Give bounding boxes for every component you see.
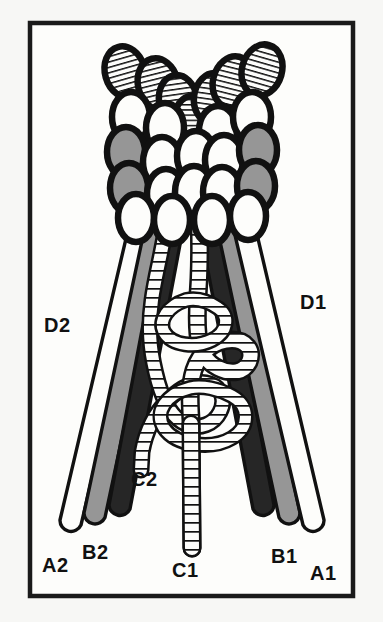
ellipse-white	[230, 192, 266, 240]
label-c1: C1	[172, 559, 199, 581]
figure-root: D2 D1 A2 B2 C2 C1 B1 A1	[0, 0, 383, 622]
label-b2: B2	[82, 541, 109, 563]
label-d2: D2	[44, 314, 71, 336]
label-a2: A2	[42, 554, 69, 576]
ellipse-white	[118, 194, 154, 242]
label-b1: B1	[271, 545, 298, 567]
label-a1: A1	[310, 562, 337, 584]
molecular-strand-diagram: D2 D1 A2 B2 C2 C1 B1 A1	[0, 0, 383, 622]
ribbon-c1-tail	[191, 424, 192, 548]
ellipse-white	[154, 196, 190, 244]
label-c2: C2	[131, 468, 158, 490]
ellipse-white	[194, 196, 230, 244]
label-d1: D1	[300, 291, 327, 313]
